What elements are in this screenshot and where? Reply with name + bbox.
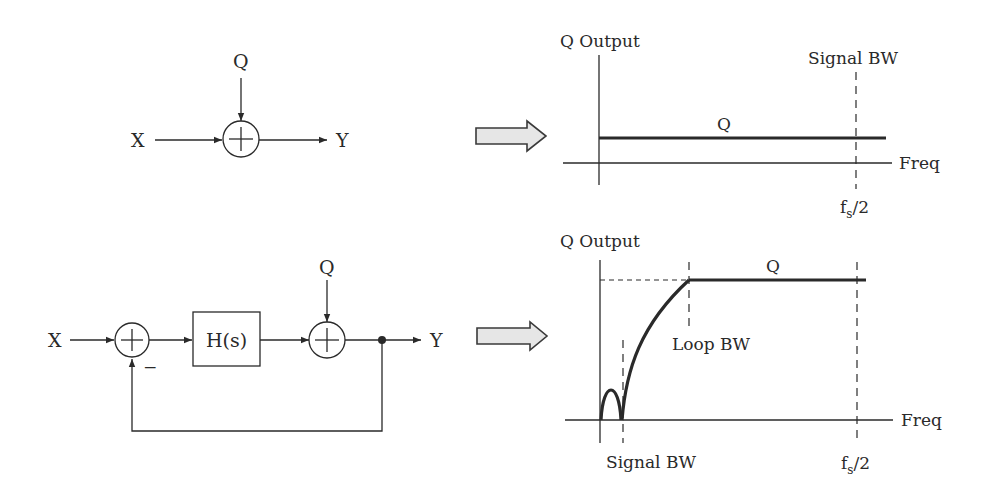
y-axis-label: Q Output <box>560 31 640 51</box>
feedback-path <box>132 340 382 431</box>
summing-junction-icon <box>223 121 259 157</box>
right-arrow-icon <box>477 322 547 350</box>
signal-band-hump <box>601 390 621 420</box>
fs-half-label: fs/2 <box>840 197 869 221</box>
signal-bw-label: Signal BW <box>606 452 696 472</box>
noise-shaped-spectrum-chart: Q Output Freq Q Loop BW Signal BW fs/2 <box>560 231 942 477</box>
summing-junction-2-icon <box>309 322 345 358</box>
q-label: Q <box>766 256 780 276</box>
input-x-label: X <box>131 129 145 151</box>
x-axis-label: Freq <box>901 410 942 430</box>
figure-canvas: X Q Y X − H(s) Q Y <box>0 0 985 490</box>
feedback-minus-sign: − <box>143 357 157 377</box>
closed-loop-diagram: X − H(s) Q Y <box>48 256 443 431</box>
right-arrow-icon <box>476 121 546 151</box>
noise-q-label: Q <box>233 50 249 72</box>
q-label: Q <box>717 114 731 134</box>
x-axis-label: Freq <box>899 153 940 173</box>
open-loop-diagram: X Q Y <box>131 50 349 157</box>
input-x-label: X <box>48 329 62 351</box>
filter-label: H(s) <box>206 329 247 351</box>
output-y-label: Y <box>335 129 349 151</box>
open-loop-spectrum-chart: Q Output Freq Q Signal BW fs/2 <box>560 31 940 221</box>
output-y-label: Y <box>429 329 443 351</box>
signal-bw-label: Signal BW <box>808 48 898 68</box>
summing-junction-1-icon <box>115 323 149 357</box>
fs-half-label: fs/2 <box>841 453 870 477</box>
noise-q-label: Q <box>319 256 335 278</box>
loop-bw-label: Loop BW <box>672 334 751 354</box>
y-axis-label: Q Output <box>560 231 640 251</box>
